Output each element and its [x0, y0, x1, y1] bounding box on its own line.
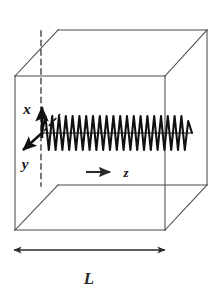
cube-edge-top-left-depth [15, 30, 58, 76]
y-axis-label: y [20, 156, 29, 172]
physics-diagram-svg: x y z L [0, 0, 224, 294]
cube-edge-bottom-left-depth [15, 185, 58, 230]
x-axis-label: x [22, 101, 31, 117]
length-dimension-label: L [83, 269, 94, 288]
figure-root: x y z L [0, 0, 224, 294]
length-dimension: L [14, 250, 165, 288]
cube-edge-bottom-right-depth [165, 185, 207, 230]
y-axis-arrow [23, 132, 43, 150]
propagating-wave [42, 116, 192, 150]
z-axis-label: z [122, 165, 129, 180]
cube-back-face [58, 30, 207, 185]
cube-edge-top-right-depth [165, 30, 207, 76]
